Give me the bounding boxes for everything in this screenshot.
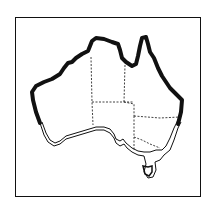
state-borders [91,57,180,150]
nsw-vic-border [134,137,160,148]
nt-qld-border [124,65,125,102]
north-west-east-coast-thick-line [32,37,182,124]
wa-border [91,57,93,125]
sa-qld-border [124,102,134,116]
australia-map [0,0,214,209]
qld-nsw-border [134,116,180,118]
tasmania-outline [143,166,152,176]
